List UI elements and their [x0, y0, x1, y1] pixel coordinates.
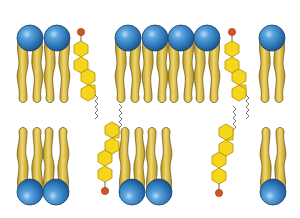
- lipid-bilayer-diagram: [0, 0, 300, 218]
- top-leaflet: [17, 25, 285, 119]
- phospholipid-top-6: [194, 25, 220, 103]
- phospholipid-top-7: [259, 25, 285, 103]
- bottom-leaflet: [17, 104, 286, 205]
- cholesterol-top-1: [74, 28, 98, 119]
- phospholipid-top-1: [17, 25, 43, 103]
- cholesterol-top-2: [225, 28, 249, 119]
- phospholipid-top-2: [44, 25, 70, 103]
- phospholipid-bottom-1: [17, 128, 43, 206]
- cholesterol-bottom-1: [98, 104, 122, 195]
- phospholipid-bottom-3: [119, 128, 145, 206]
- phospholipid-top-5: [168, 25, 194, 103]
- phospholipid-bottom-4: [146, 128, 172, 206]
- phospholipid-top-3: [115, 25, 141, 103]
- phospholipid-bottom-2: [43, 128, 69, 206]
- cholesterol-bottom-2: [212, 106, 236, 197]
- phospholipid-top-4: [142, 25, 168, 103]
- phospholipid-bottom-5: [260, 128, 286, 206]
